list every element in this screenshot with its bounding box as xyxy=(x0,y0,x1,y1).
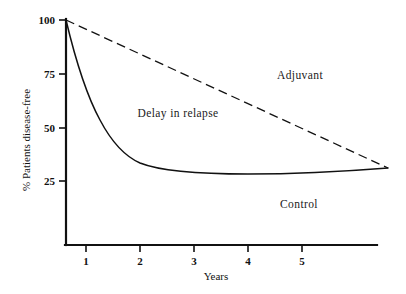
x-tick-label-3: 3 xyxy=(191,255,197,267)
y-tick-label-100: 100 xyxy=(39,14,56,26)
x-tick-label-1: 1 xyxy=(83,255,89,267)
y-tick-label-75: 75 xyxy=(44,68,56,80)
x-tick-label-2: 2 xyxy=(137,255,143,267)
series-line-control xyxy=(66,20,388,174)
annotation-control: Control xyxy=(280,198,318,210)
x-axis-title: Years xyxy=(204,270,229,282)
chart-canvas: 100 75 50 25 1 2 3 4 5 Years % Patients … xyxy=(0,0,406,294)
y-axis-title: % Patients disease-free xyxy=(20,89,32,191)
annotation-delay-in-relapse: Delay in relapse xyxy=(137,107,218,120)
y-tick-label-50: 50 xyxy=(44,122,56,134)
survival-curve-chart: 100 75 50 25 1 2 3 4 5 Years % Patients … xyxy=(0,0,406,294)
series-line-adjuvant xyxy=(66,20,388,168)
x-tick-label-5: 5 xyxy=(299,255,305,267)
y-tick-label-25: 25 xyxy=(44,175,56,187)
x-tick-label-4: 4 xyxy=(245,255,251,267)
annotation-adjuvant: Adjuvant xyxy=(277,69,323,82)
